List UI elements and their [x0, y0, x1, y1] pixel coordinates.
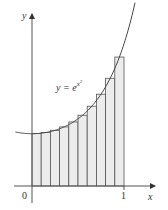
rectangle — [41, 133, 50, 186]
midpoint-rectangles — [32, 57, 124, 186]
rectangle — [87, 106, 96, 186]
function-label: y = ex2 — [55, 79, 83, 93]
rectangle — [32, 134, 41, 186]
x-tick-label-1: 1 — [121, 190, 126, 201]
rectangle — [115, 57, 124, 186]
rectangle — [50, 130, 59, 186]
x-tick-label-0: 0 — [22, 190, 27, 201]
riemann-sum-figure: y x 0 1 y = ex2 — [0, 0, 168, 210]
rectangle — [60, 127, 69, 186]
rectangle — [69, 122, 78, 186]
y-axis-label: y — [21, 10, 27, 21]
rectangle — [96, 94, 105, 186]
rectangle — [106, 78, 115, 186]
rectangle — [78, 115, 87, 186]
x-axis-label: x — [147, 191, 153, 202]
